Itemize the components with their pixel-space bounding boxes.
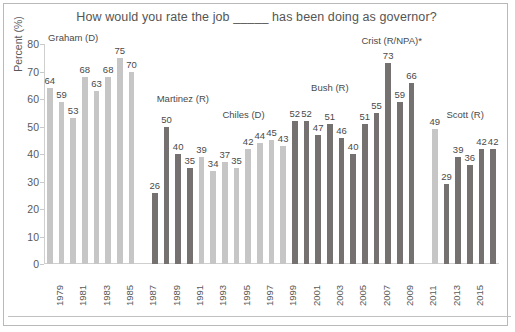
bar — [210, 171, 215, 265]
bar-value-label: 40 — [173, 141, 184, 152]
series-label: Scott (R) — [446, 109, 483, 120]
bar-value-label: 52 — [301, 108, 312, 119]
series-label: Chiles (D) — [222, 109, 264, 120]
x-tick-label: 1993 — [217, 285, 228, 306]
bar-value-label: 37 — [220, 149, 231, 160]
x-tick-label: 1995 — [241, 285, 252, 306]
bar — [292, 121, 297, 264]
bar-value-label: 43 — [278, 133, 289, 144]
x-tick-label: 1983 — [101, 285, 112, 306]
bar — [59, 102, 64, 264]
x-axis-labels: 1979198119831985198719891991199319951997… — [44, 266, 499, 311]
x-tick-label: 2005 — [357, 285, 368, 306]
y-tick-mark — [40, 182, 44, 183]
chart-title: How would you rate the job _____ has bee… — [4, 10, 509, 24]
x-tick-label: 2013 — [451, 285, 462, 306]
bar — [234, 168, 239, 264]
y-tick-mark — [40, 237, 44, 238]
bar — [245, 149, 250, 265]
bar-value-label: 26 — [150, 180, 161, 191]
bar-value-label: 47 — [313, 122, 324, 133]
bar-value-label: 66 — [406, 70, 417, 81]
x-tick-label: 2001 — [311, 285, 322, 306]
x-tick-label: 1981 — [77, 285, 88, 306]
bar-value-label: 35 — [231, 155, 242, 166]
bar — [187, 168, 192, 264]
y-tick-label: 20 — [27, 203, 39, 215]
bar-value-label: 29 — [441, 171, 452, 182]
bar-value-label: 45 — [266, 127, 277, 138]
x-tick-label: 2011 — [427, 286, 438, 306]
bar — [152, 193, 157, 265]
bar — [490, 149, 495, 265]
bar — [339, 138, 344, 265]
x-tick-label: 1979 — [54, 285, 65, 306]
bar-value-label: 36 — [465, 152, 476, 163]
bar-value-label: 44 — [255, 130, 266, 141]
bar — [315, 135, 320, 264]
y-tick-mark — [40, 209, 44, 210]
x-tick-label: 2015 — [474, 285, 485, 306]
x-tick-label: 1985 — [124, 285, 135, 306]
x-tick-label: 2007 — [381, 285, 392, 306]
bar — [47, 88, 52, 264]
bar-value-label: 64 — [45, 75, 56, 86]
bar-value-label: 42 — [243, 136, 254, 147]
y-tick-mark — [40, 99, 44, 100]
x-tick-label: 1991 — [194, 285, 205, 306]
bar-value-label: 46 — [336, 125, 347, 136]
bar — [479, 149, 484, 265]
series-label: Crist (R/NPA)* — [361, 35, 422, 46]
bar-value-label: 51 — [325, 111, 336, 122]
bar-value-label: 55 — [371, 100, 382, 111]
bottom-divider — [8, 316, 511, 317]
bar-value-label: 70 — [126, 59, 137, 70]
bar-value-label: 68 — [103, 64, 114, 75]
bar-value-label: 68 — [80, 64, 91, 75]
x-tick-label: 2009 — [404, 285, 415, 306]
y-tick-mark — [40, 264, 44, 265]
bar-value-label: 75 — [115, 45, 126, 56]
bar — [70, 118, 75, 264]
bar-value-label: 73 — [383, 50, 394, 61]
bar — [82, 77, 87, 264]
bar-value-label: 35 — [185, 155, 196, 166]
bar — [164, 127, 169, 265]
bar-value-label: 63 — [91, 78, 102, 89]
bar-value-label: 49 — [430, 116, 441, 127]
bar-value-label: 59 — [56, 89, 67, 100]
bar — [444, 184, 449, 264]
x-tick-label: 1999 — [287, 285, 298, 306]
bar — [175, 154, 180, 264]
plot-area: Percent (%) 01020304050607080 6459536863… — [44, 44, 499, 264]
bar — [105, 77, 110, 264]
bar — [129, 72, 134, 265]
y-tick-mark — [40, 72, 44, 73]
bar — [350, 154, 355, 264]
series-label: Bush (R) — [311, 82, 348, 93]
bar — [222, 162, 227, 264]
y-tick-label: 10 — [27, 231, 39, 243]
y-tick-label: 30 — [27, 176, 39, 188]
y-tick-label: 60 — [27, 93, 39, 105]
bar-value-label: 52 — [290, 108, 301, 119]
x-tick-label: 2003 — [334, 285, 345, 306]
bar — [304, 121, 309, 264]
y-tick-label: 50 — [27, 121, 39, 133]
y-tick-label: 70 — [27, 66, 39, 78]
bar — [199, 157, 204, 264]
x-tick-label: 1997 — [264, 285, 275, 306]
bar — [409, 83, 414, 265]
bar — [385, 63, 390, 264]
series-label: Graham (D) — [48, 32, 98, 43]
y-tick-mark — [40, 154, 44, 155]
bar-value-label: 59 — [395, 89, 406, 100]
bar — [397, 102, 402, 264]
series-label: Martinez (R) — [157, 93, 209, 104]
bar — [362, 124, 367, 264]
bar-value-label: 39 — [196, 144, 207, 155]
bar — [117, 58, 122, 264]
y-tick-mark — [40, 127, 44, 128]
bar-value-label: 42 — [488, 136, 499, 147]
bar — [455, 157, 460, 264]
